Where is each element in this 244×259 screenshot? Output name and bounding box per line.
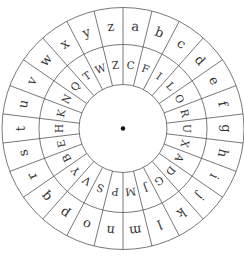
outer-letter: s (15, 148, 31, 158)
outer-letter: w (37, 51, 56, 69)
inner-letter: N (59, 92, 74, 106)
inner-letter: U (181, 124, 193, 133)
outer-letter: e (206, 74, 223, 88)
outer-letter: g (219, 124, 234, 132)
outer-letter: m (128, 223, 142, 239)
outer-letter: n (105, 223, 116, 239)
inner-letter: T (80, 69, 93, 83)
outer-letter: l (155, 217, 164, 233)
inner-letter: O (172, 92, 187, 106)
outer-letter: z (106, 18, 115, 34)
outer-letter: i (207, 171, 222, 182)
inner-letter: B (59, 152, 73, 165)
outer-letter: v (23, 73, 40, 88)
outer-letter: u (15, 98, 32, 110)
outer-letter: p (57, 205, 72, 222)
inner-letter: D (164, 164, 179, 178)
inner-letter: L (164, 79, 178, 92)
inner-letter: Y (68, 164, 83, 179)
inner-letter: V (80, 174, 94, 189)
outer-letter: d (192, 52, 209, 68)
cipher-wheel: abcdefghijklmnopqrstuvwxyz CFILORUXADGJM… (0, 0, 244, 259)
outer-letter: q (38, 189, 55, 205)
inner-letter: W (93, 61, 108, 76)
inner-letter: A (172, 151, 187, 165)
outer-letter: h (215, 147, 232, 159)
segment-divider (167, 134, 243, 143)
inner-letter: G (152, 174, 166, 189)
inner-letter: R (178, 108, 192, 120)
inner-letter: F (140, 62, 151, 76)
segment-divider (3, 134, 79, 143)
outer-letter: a (131, 18, 141, 34)
outer-letter: j (193, 189, 208, 203)
outer-letter: b (153, 24, 166, 41)
outer-letter: x (57, 35, 72, 52)
outer-letter: o (80, 216, 93, 233)
outer-letter: r (23, 169, 40, 182)
inner-letter: H (53, 124, 65, 133)
inner-letter: P (111, 186, 119, 199)
inner-letter: K (54, 108, 68, 119)
segment-divider (3, 114, 79, 123)
inner-letter: Z (111, 59, 120, 72)
outer-letter: c (174, 35, 189, 51)
inner-letter: I (154, 70, 164, 82)
pivot-dot (121, 126, 125, 130)
inner-letter: J (142, 182, 151, 195)
outer-letter: t (13, 125, 28, 131)
outer-letter: f (215, 100, 231, 109)
inner-letter: X (178, 139, 192, 150)
segment-divider (167, 114, 243, 123)
outer-letter: k (174, 205, 189, 222)
inner-letter: S (95, 181, 106, 195)
inner-letter: M (124, 185, 136, 198)
inner-letter: E (54, 139, 67, 149)
outer-letter: y (79, 24, 93, 41)
inner-letter: C (126, 59, 135, 72)
